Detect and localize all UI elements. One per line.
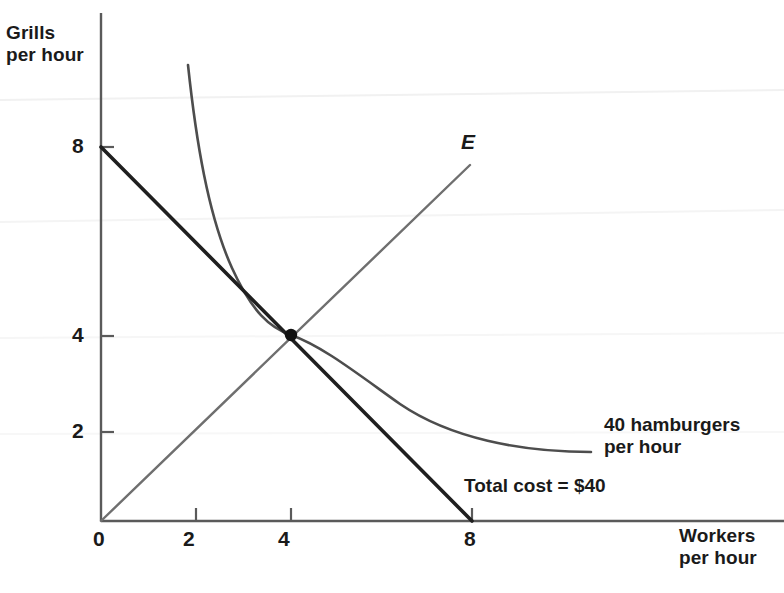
- isoquant-label: 40 hamburgers per hour: [604, 414, 740, 459]
- x-tick-marks: [196, 508, 472, 521]
- y-tick-marks: [101, 147, 114, 432]
- isoquant-isocost-plot: [0, 0, 784, 593]
- y-tick-label-2: 2: [72, 419, 84, 444]
- y-axis-title: Grills per hour: [6, 22, 84, 67]
- x-axis-title: Workers per hour: [679, 525, 757, 570]
- y-tick-label-4: 4: [72, 323, 84, 348]
- equilibrium-point-marker: [285, 329, 297, 341]
- scan-artifacts: [0, 90, 784, 434]
- y-tick-label-8: 8: [72, 134, 84, 159]
- x-tick-label-0: 0: [93, 527, 105, 552]
- isoquant-curve: [188, 65, 591, 452]
- isocost-label: Total cost = $40: [464, 475, 606, 497]
- x-tick-label-8: 8: [464, 527, 476, 552]
- chart-page: Grills per hour Workers per hour 8 4 2 0…: [0, 0, 784, 593]
- expansion-path-label: E: [461, 130, 475, 155]
- x-tick-label-4: 4: [278, 527, 290, 552]
- x-tick-label-2: 2: [183, 527, 195, 552]
